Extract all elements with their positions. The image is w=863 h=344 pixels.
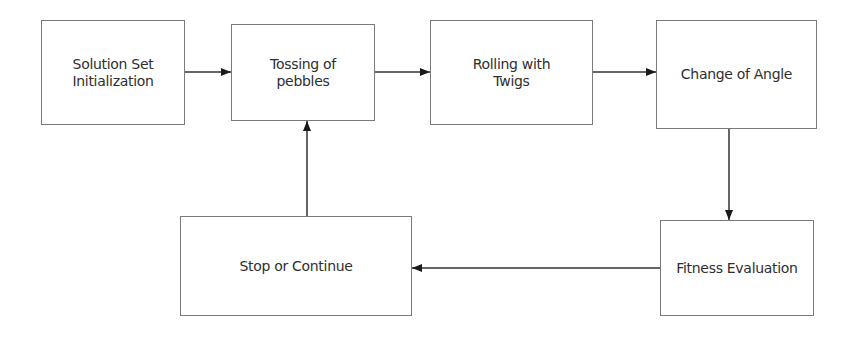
node-stop-or-continue: Stop or Continue	[180, 216, 412, 316]
node-solution-set-initialization: Solution Set Initialization	[41, 20, 185, 125]
node-label-line: Solution Set	[72, 56, 153, 73]
node-label-line: pebbles	[270, 73, 336, 90]
node-rolling-with-twigs: Rolling with Twigs	[430, 20, 593, 125]
node-fitness-evaluation: Fitness Evaluation	[660, 220, 814, 316]
node-label-line: Stop or Continue	[239, 258, 352, 275]
node-tossing-of-pebbles: Tossing of pebbles	[231, 24, 375, 121]
node-label-line: Initialization	[72, 73, 153, 90]
node-label-line: Fitness Evaluation	[676, 260, 797, 277]
node-label-line: Twigs	[473, 73, 551, 90]
node-label-line: Change of Angle	[681, 66, 792, 83]
node-change-of-angle: Change of Angle	[656, 20, 817, 129]
node-label-line: Rolling with	[473, 56, 551, 73]
node-label-line: Tossing of	[270, 56, 336, 73]
